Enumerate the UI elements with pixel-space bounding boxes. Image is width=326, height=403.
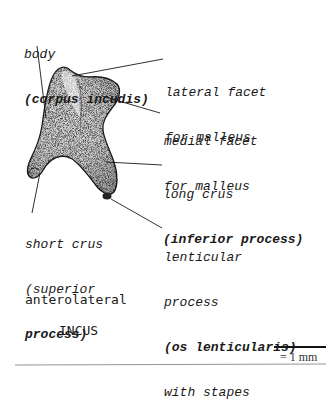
label-lenticular-line3: (os lenticularis): [164, 340, 297, 355]
label-long-crus-line1: long crus: [163, 187, 303, 202]
label-short-crus: short crus (superior process): [25, 207, 103, 372]
label-lenticular: lenticular process (os lenticularis) wit…: [164, 220, 297, 403]
label-body: body (corpus incudis): [24, 17, 149, 137]
lenticular-knob: [103, 193, 112, 200]
figure-title: INCUS: [59, 323, 98, 338]
label-body-line2: (corpus incudis): [24, 92, 149, 107]
view-label: anterolateral: [25, 292, 127, 307]
label-body-line1: body: [24, 47, 149, 62]
label-medial-facet-line1: medial facet: [164, 134, 258, 149]
leader-lenticular: [111, 199, 162, 228]
label-lateral-facet-line1: lateral facet: [165, 85, 266, 100]
label-lenticular-line1: lenticular: [164, 250, 297, 265]
label-lenticular-line2: process: [164, 295, 297, 310]
label-short-crus-line1: short crus: [25, 237, 103, 252]
scale-bar-label: = 1 mm: [280, 350, 317, 365]
label-lenticular-line4: with stapes: [164, 385, 297, 400]
